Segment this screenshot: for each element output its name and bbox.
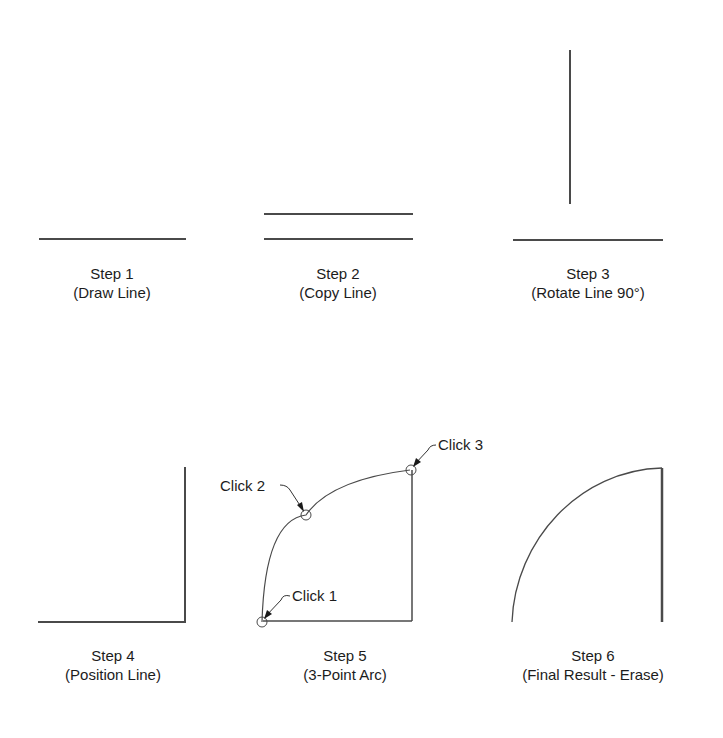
step6-subtitle: (Final Result - Erase) — [522, 665, 664, 684]
step2-subtitle: (Copy Line) — [299, 283, 377, 302]
step3-caption: Step 3 (Rotate Line 90°) — [531, 264, 645, 302]
step6-caption: Step 6 (Final Result - Erase) — [522, 646, 664, 684]
step5-caption: Step 5 (3-Point Arc) — [303, 646, 386, 684]
step1-title: Step 1 — [73, 264, 151, 283]
click2-label: Click 2 — [220, 477, 265, 494]
step5-title: Step 5 — [303, 646, 386, 665]
click3-label: Click 3 — [438, 436, 483, 453]
step6-arc — [512, 468, 662, 622]
step5-subtitle: (3-Point Arc) — [303, 665, 386, 684]
step3-title: Step 3 — [531, 264, 645, 283]
step1-subtitle: (Draw Line) — [73, 283, 151, 302]
step4-subtitle: (Position Line) — [65, 665, 161, 684]
step3-subtitle: (Rotate Line 90°) — [531, 283, 645, 302]
step1-caption: Step 1 (Draw Line) — [73, 264, 151, 302]
step4-caption: Step 4 (Position Line) — [65, 646, 161, 684]
step2-title: Step 2 — [299, 264, 377, 283]
click1-label: Click 1 — [292, 587, 337, 604]
step6-title: Step 6 — [522, 646, 664, 665]
click2-arrowhead — [297, 502, 304, 512]
step2-caption: Step 2 (Copy Line) — [299, 264, 377, 302]
step4-title: Step 4 — [65, 646, 161, 665]
diagram-canvas: Click 1 Click 2 Click 3 — [0, 0, 723, 738]
